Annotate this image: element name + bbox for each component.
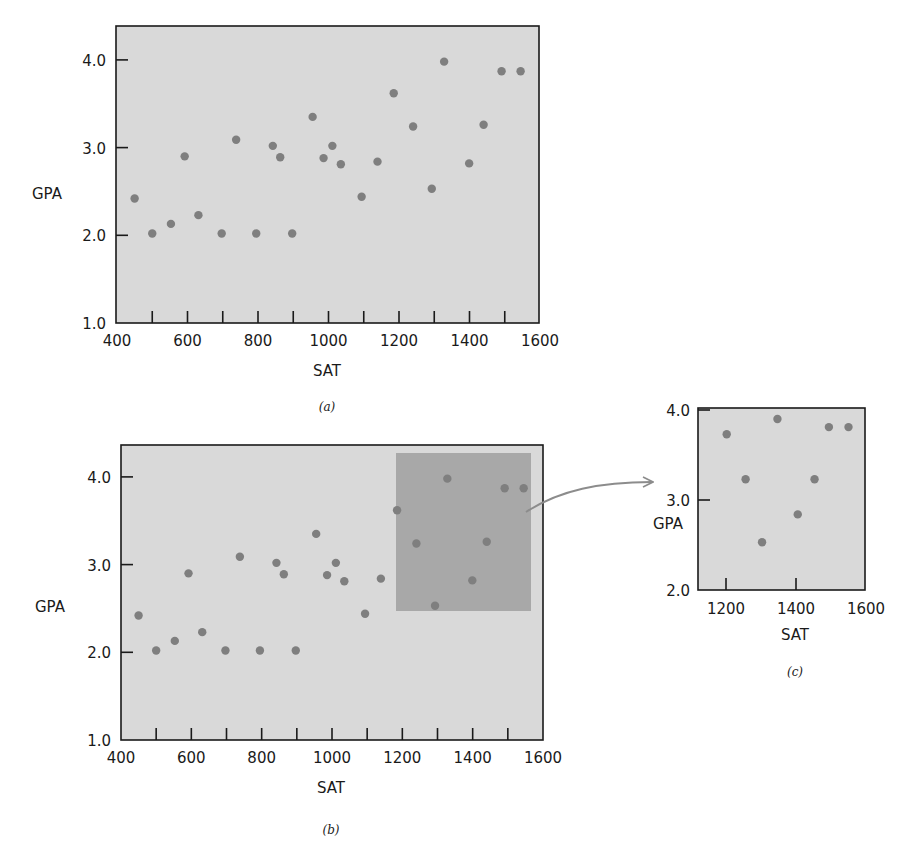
- data-point: [194, 211, 202, 219]
- data-point: [184, 569, 192, 577]
- data-point: [272, 559, 280, 567]
- data-point: [269, 142, 277, 150]
- data-point: [361, 610, 369, 618]
- data-point: [723, 430, 731, 438]
- data-point: [280, 570, 288, 578]
- data-point: [479, 121, 487, 129]
- data-point: [328, 142, 336, 150]
- data-point: [256, 646, 264, 654]
- data-point: [844, 423, 852, 431]
- data-point: [409, 122, 417, 130]
- y-tick-label: 2.0: [82, 227, 106, 245]
- x-tick-label: 1400: [454, 749, 492, 767]
- x-tick-label: 600: [173, 332, 202, 350]
- x-axis-label-c: SAT: [781, 626, 810, 644]
- y-tick-label: 4.0: [82, 52, 106, 70]
- data-point: [221, 646, 229, 654]
- panel-c: 2.03.04.0 120014001600 GPA SAT (c): [653, 402, 885, 679]
- data-point: [217, 229, 225, 237]
- y-tick-label: 1.0: [87, 732, 111, 750]
- x-tick-label: 1600: [521, 332, 559, 350]
- data-point: [497, 67, 505, 75]
- x-tick-label: 1200: [707, 600, 745, 618]
- x-tick-label: 1000: [313, 749, 351, 767]
- data-point: [393, 506, 401, 514]
- zoom-arrow-icon: [526, 482, 652, 512]
- data-point: [390, 89, 398, 97]
- figure: 1.02.03.04.0 4006008001000120014001600 G…: [0, 0, 909, 858]
- caption-b: (b): [322, 823, 339, 837]
- data-point: [180, 152, 188, 160]
- y-tick-label: 4.0: [666, 402, 690, 420]
- panel-b: 1.02.03.04.0 4006008001000120014001600 G…: [35, 445, 562, 837]
- x-tick-label: 1000: [309, 332, 347, 350]
- x-tick-label: 800: [247, 749, 276, 767]
- y-tick-label: 2.0: [666, 582, 690, 600]
- x-axis-label-b: SAT: [317, 779, 346, 797]
- data-point: [794, 510, 802, 518]
- y-axis-label-c: GPA: [653, 515, 684, 533]
- data-point: [773, 415, 781, 423]
- x-tick-label: 800: [244, 332, 273, 350]
- y-axis-label-b: GPA: [35, 598, 66, 616]
- data-point: [500, 484, 508, 492]
- data-point: [340, 577, 348, 585]
- data-point: [440, 57, 448, 65]
- data-point: [519, 484, 527, 492]
- panel-a: 1.02.03.04.0 4006008001000120014001600 G…: [32, 26, 559, 414]
- x-tick-label: 1600: [847, 600, 885, 618]
- y-tick-label: 2.0: [87, 644, 111, 662]
- data-point: [825, 423, 833, 431]
- data-point: [373, 157, 381, 165]
- data-point: [332, 559, 340, 567]
- y-tick-label: 1.0: [82, 315, 106, 333]
- data-point: [232, 136, 240, 144]
- x-tick-label: 400: [103, 332, 132, 350]
- y-tick-label: 4.0: [87, 469, 111, 487]
- x-axis-label-a: SAT: [313, 362, 342, 380]
- caption-c: (c): [787, 665, 803, 679]
- data-point: [357, 193, 365, 201]
- x-tick-label: 1200: [380, 332, 418, 350]
- data-point: [443, 474, 451, 482]
- data-point: [412, 539, 420, 547]
- data-point: [130, 194, 138, 202]
- data-point: [236, 553, 244, 561]
- data-point: [319, 154, 327, 162]
- data-point: [292, 646, 300, 654]
- plot-area-a: [116, 26, 539, 323]
- x-tick-label: 400: [107, 749, 136, 767]
- data-point: [252, 229, 260, 237]
- data-point: [758, 538, 766, 546]
- data-point: [198, 628, 206, 636]
- data-point: [483, 538, 491, 546]
- y-tick-label: 3.0: [82, 140, 106, 158]
- y-axis-label-a: GPA: [32, 185, 63, 203]
- caption-a: (a): [319, 400, 336, 414]
- x-tick-label: 1200: [383, 749, 421, 767]
- data-point: [516, 67, 524, 75]
- y-tick-label: 3.0: [666, 492, 690, 510]
- data-point: [741, 475, 749, 483]
- data-point: [171, 637, 179, 645]
- data-point: [167, 220, 175, 228]
- highlight-region: [396, 453, 531, 611]
- data-point: [431, 602, 439, 610]
- data-point: [810, 475, 818, 483]
- data-point: [312, 530, 320, 538]
- data-point: [152, 646, 160, 654]
- x-tick-label: 1400: [777, 600, 815, 618]
- data-point: [276, 153, 284, 161]
- data-point: [288, 229, 296, 237]
- data-point: [148, 229, 156, 237]
- data-point: [323, 571, 331, 579]
- data-point: [377, 574, 385, 582]
- data-point: [308, 113, 316, 121]
- data-point: [134, 611, 142, 619]
- x-tick-label: 600: [177, 749, 206, 767]
- data-point: [428, 185, 436, 193]
- y-tick-label: 3.0: [87, 557, 111, 575]
- data-point: [468, 576, 476, 584]
- data-point: [337, 160, 345, 168]
- data-point: [465, 159, 473, 167]
